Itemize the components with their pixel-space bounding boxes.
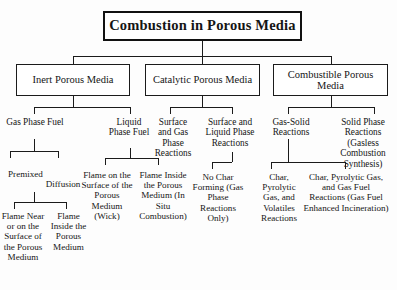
node-char-pyrolytic-volatiles-label: Char, Pyrolytic Gas, and Volatiles React… [261, 172, 297, 223]
connector-gas-solid-stem [288, 139, 289, 162]
connector-premixed-stem [34, 192, 35, 202]
node-gas-solid-reactions: Gas-Solid Reactions [262, 117, 320, 138]
connector-premixed-drop-1 [14, 202, 15, 209]
node-no-char-forming: No Char Forming (Gas Phase Reactions Onl… [191, 172, 245, 223]
connector-catalytic-bus [170, 107, 232, 108]
node-gas-phase-fuel-label: Gas Phase Fuel [6, 117, 63, 127]
connector-gas-phase-fuel-drop-1 [10, 151, 11, 158]
node-combustible-porous-media-label: Combustible Porous Media [274, 69, 387, 92]
connector-combustible-drop-2 [374, 107, 375, 114]
connector-inert-drop-1 [34, 107, 35, 114]
node-flame-near-or-on-surface-label: Flame Near or on the Surface of the Poro… [2, 211, 45, 262]
diagram-canvas: Combustion in Porous Media Inert Porous … [0, 0, 397, 290]
connector-gas-solid-bus [271, 162, 345, 163]
node-flame-inside-porous-medium-label: Flame Inside the Porous Medium [51, 211, 87, 252]
node-gas-phase-fuel: Gas Phase Fuel [4, 117, 66, 127]
connector-inert-stem [73, 96, 74, 107]
node-gas-solid-reactions-label: Gas-Solid Reactions [272, 117, 309, 137]
node-root: Combustion in Porous Media [103, 11, 302, 41]
connector-root-stem [202, 41, 203, 56]
node-flame-inside-porous-medium: Flame Inside the Porous Medium [48, 211, 89, 252]
node-char-gas-fuel-incineration: Char, Pyrolytic Gas, and Gas Fuel Reacti… [303, 172, 389, 213]
connector-inert-bus [34, 107, 130, 108]
node-char-pyrolytic-volatiles: Char, Pyrolytic Gas, and Volatiles React… [254, 172, 304, 223]
connector-root-drop-3 [331, 56, 332, 64]
node-inert-porous-media-label: Inert Porous Media [32, 74, 113, 85]
connector-gas-solid-drop-2 [345, 162, 346, 169]
connector-root-drop-2 [202, 56, 203, 64]
connector-liquid-phase-fuel-stem [130, 148, 131, 158]
connector-liquid-phase-fuel-drop-2 [158, 158, 159, 165]
node-inert-porous-media: Inert Porous Media [16, 64, 130, 96]
node-flame-inside-in-situ-label: Flame Inside the Porous Medium (In Situ … [139, 170, 187, 221]
node-char-gas-fuel-incineration-label: Char, Pyrolytic Gas, and Gas Fuel Reacti… [303, 172, 388, 213]
node-flame-on-surface-wick-label: Flame on the Surface of the Porous Mediu… [81, 170, 132, 221]
connector-surface-liquid-stem [232, 152, 233, 162]
connector-surface-liquid-bus [212, 162, 232, 163]
node-surface-liquid-phase-reactions: Surface and Liquid Phase Reactions [199, 117, 261, 148]
node-diffusion-label: Diffusion [46, 179, 81, 189]
connector-premixed-bus [14, 202, 66, 203]
connector-combustible-stem [331, 96, 332, 107]
connector-liquid-phase-fuel-bus [105, 158, 158, 159]
connector-catalytic-stem [202, 96, 203, 107]
connector-premixed-drop-2 [66, 202, 67, 209]
node-catalytic-porous-media-label: Catalytic Porous Media [153, 74, 252, 85]
connector-gas-solid-drop-1 [271, 162, 272, 169]
node-surface-gas-phase-reactions-label: Surface and Gas Phase Reactions [155, 117, 192, 158]
node-diffusion: Diffusion [39, 179, 87, 189]
node-premixed: Premixed [0, 169, 51, 179]
node-solid-phase-reactions-label: Solid Phase Reactions (Gasless Combustio… [340, 117, 385, 169]
node-catalytic-porous-media: Catalytic Porous Media [145, 64, 260, 96]
connector-inert-drop-2 [130, 107, 131, 114]
node-surface-gas-phase-reactions: Surface and Gas Phase Reactions [152, 117, 194, 159]
node-no-char-forming-label: No Char Forming (Gas Phase Reactions Onl… [193, 172, 244, 223]
node-liquid-phase-fuel: Liquid Phase Fuel [107, 117, 151, 138]
connector-liquid-phase-fuel-drop-1 [105, 158, 106, 165]
node-premixed-label: Premixed [8, 169, 43, 179]
connector-combustible-drop-1 [288, 107, 289, 114]
node-flame-near-or-on-surface: Flame Near or on the Surface of the Poro… [0, 211, 46, 262]
node-combustible-porous-media: Combustible Porous Media [273, 64, 388, 96]
node-surface-liquid-phase-reactions-label: Surface and Liquid Phase Reactions [206, 117, 255, 148]
node-root-label: Combustion in Porous Media [109, 18, 296, 34]
connector-catalytic-drop-2 [232, 107, 233, 114]
connector-catalytic-drop-1 [170, 107, 171, 114]
connector-combustible-bus [288, 107, 374, 108]
connector-gas-phase-fuel-stem [34, 139, 35, 151]
connector-gas-phase-fuel-drop-2 [58, 151, 59, 158]
connector-gas-phase-fuel-bus [10, 151, 58, 152]
node-flame-inside-in-situ: Flame Inside the Porous Medium (In Situ … [134, 170, 192, 221]
connector-surface-liquid-drop-1 [212, 162, 213, 169]
connector-root-drop-1 [73, 56, 74, 64]
node-liquid-phase-fuel-label: Liquid Phase Fuel [109, 117, 150, 137]
